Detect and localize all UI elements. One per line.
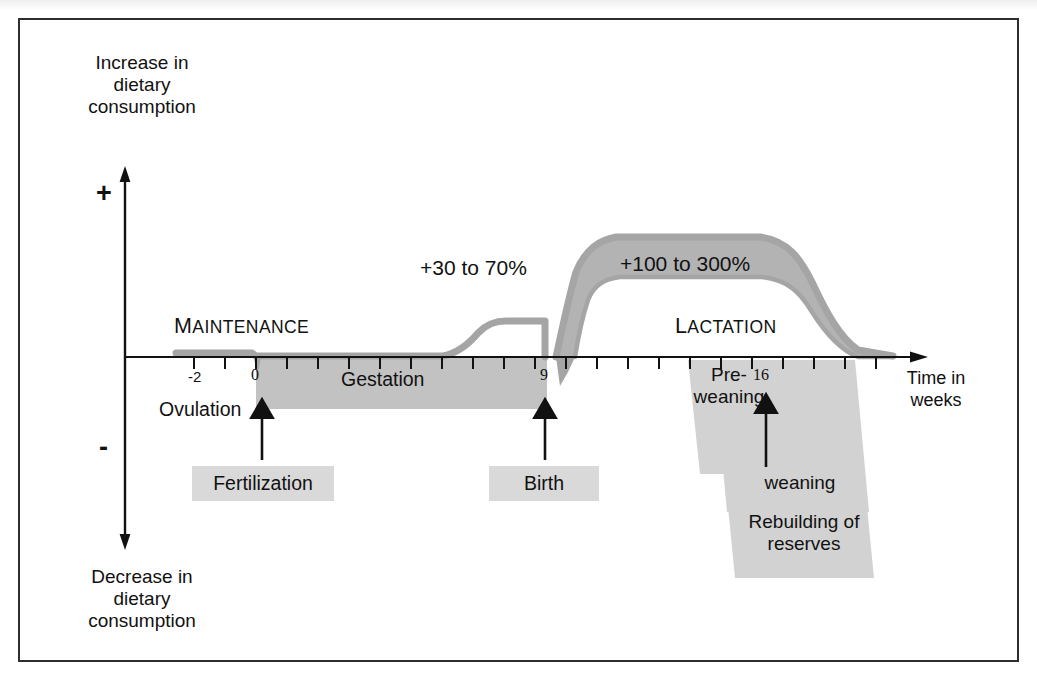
lactation-label-initial: L	[675, 314, 687, 338]
y-axis-plus-sign: +	[96, 178, 112, 209]
preweaning-line-2: weaning	[694, 386, 765, 407]
y-axis-bottom-label: Decrease in dietary consumption	[62, 566, 222, 632]
tick-label-0: 0	[251, 366, 259, 385]
y-axis-minus-sign: -	[99, 432, 108, 463]
phase-label-weaning: weaning	[745, 472, 855, 494]
phase-label-gestation: Gestation	[341, 368, 424, 391]
lactation-increase-label: +100 to 300%	[620, 252, 750, 276]
gestation-increase-label: +30 to 70%	[420, 256, 527, 280]
figure-canvas: Increase in dietary consumption Decrease…	[0, 0, 1037, 697]
preweaning-line-1: Pre-	[711, 364, 747, 385]
tick-label-9: 9	[540, 366, 548, 385]
maintenance-label-initial: M	[174, 314, 192, 338]
tick-label-minus2: -2	[188, 368, 201, 385]
event-label-birth: Birth	[489, 466, 599, 501]
rebuilding-line-1: Rebuilding of	[749, 511, 860, 532]
maintenance-label: MAINTENANCE	[174, 314, 309, 339]
lactation-label: LACTATION	[675, 314, 776, 339]
event-label-ovulation: Ovulation	[159, 398, 241, 421]
phase-label-preweaning: Pre-weaning	[683, 364, 775, 408]
y-axis-top-label: Increase in dietary consumption	[62, 52, 222, 118]
phase-label-rebuilding: Rebuilding ofreserves	[733, 511, 875, 555]
x-axis-label: Time in weeks	[886, 368, 986, 411]
rebuilding-line-2: reserves	[768, 533, 841, 554]
maintenance-label-rest: AINTENANCE	[192, 317, 309, 337]
event-arrows	[262, 409, 766, 467]
lactation-label-rest: ACTATION	[687, 317, 776, 337]
event-label-fertilization: Fertilization	[192, 466, 334, 501]
